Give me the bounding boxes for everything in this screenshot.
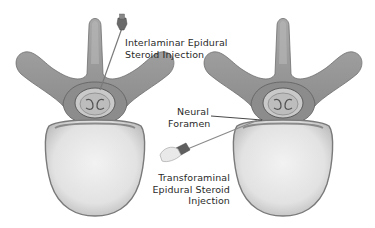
transforaminal-label-line2: Epidural Steroid xyxy=(150,184,230,196)
transforaminal-label-line3: Injection xyxy=(150,195,230,207)
neural-foramen-label-line1: Neural xyxy=(168,106,209,118)
interlaminar-label-line1: Interlaminar Epidural xyxy=(125,37,228,49)
interlaminar-label-line2: Steroid Injection xyxy=(125,49,228,61)
neural-foramen-pointer xyxy=(211,116,262,120)
neural-foramen-label-line2: Foramen xyxy=(168,118,209,130)
transforaminal-label: Transforaminal Epidural Steroid Injectio… xyxy=(150,172,230,207)
transforaminal-label-line1: Transforaminal xyxy=(150,172,230,184)
diagram-canvas: Interlaminar Epidural Steroid Injection … xyxy=(0,0,375,228)
neural-foramen-label: Neural Foramen xyxy=(168,106,209,129)
interlaminar-label: Interlaminar Epidural Steroid Injection xyxy=(125,37,228,60)
